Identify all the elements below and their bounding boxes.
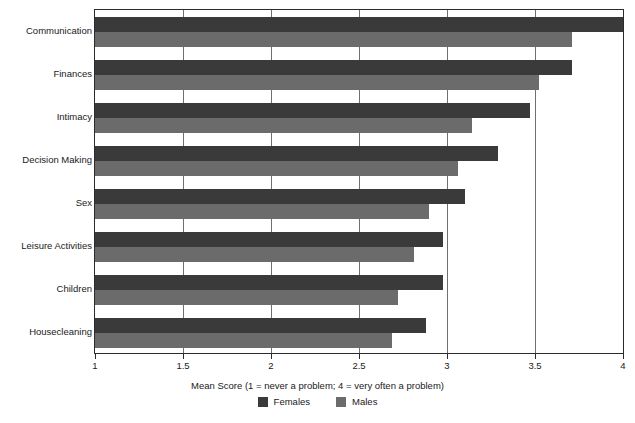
bar-males-children xyxy=(95,290,398,305)
bar-group xyxy=(95,96,623,139)
bar-females-children xyxy=(95,275,443,290)
bar-males-decision-making xyxy=(95,161,458,176)
bar-group xyxy=(95,183,623,226)
x-tick-label-2-5: 2.5 xyxy=(352,360,365,371)
bar-females-sex xyxy=(95,189,465,204)
bar-females-finances xyxy=(95,60,572,75)
x-tick-2-5 xyxy=(359,354,360,359)
y-axis-label-sex: Sex xyxy=(4,197,92,208)
chart-legend: FemalesMales xyxy=(0,396,635,407)
bar-males-housecleaning xyxy=(95,333,392,348)
y-axis-label-decision-making: Decision Making xyxy=(4,154,92,165)
x-tick-label-3-5: 3.5 xyxy=(528,360,541,371)
x-tick-4 xyxy=(623,354,624,359)
bar-group xyxy=(95,10,623,53)
bar-females-decision-making xyxy=(95,146,498,161)
legend-item-females: Females xyxy=(258,396,310,407)
bar-males-leisure-activities xyxy=(95,247,414,262)
bar-males-intimacy xyxy=(95,118,472,133)
y-axis-label-intimacy: Intimacy xyxy=(4,111,92,122)
legend-label: Males xyxy=(352,396,377,407)
bar-group xyxy=(95,312,623,355)
x-tick-label-2: 2 xyxy=(268,360,273,371)
y-axis-label-communication: Communication xyxy=(4,25,92,36)
x-tick-1 xyxy=(95,354,96,359)
bar-males-sex xyxy=(95,204,429,219)
bar-group xyxy=(95,139,623,182)
bar-group xyxy=(95,53,623,96)
horizontal-bar-chart: CommunicationFinancesIntimacyDecision Ma… xyxy=(0,0,635,423)
y-axis-category-labels: CommunicationFinancesIntimacyDecision Ma… xyxy=(0,9,92,354)
x-tick-label-1: 1 xyxy=(92,360,97,371)
legend-swatch-females-icon xyxy=(258,397,268,407)
x-axis-title: Mean Score (1 = never a problem; 4 = ver… xyxy=(0,380,635,392)
bar-females-communication xyxy=(95,17,623,32)
bar-females-leisure-activities xyxy=(95,232,443,247)
y-axis-label-finances: Finances xyxy=(4,68,92,79)
x-tick-3 xyxy=(447,354,448,359)
y-axis-label-leisure-activities: Leisure Activities xyxy=(4,240,92,251)
x-tick-label-4: 4 xyxy=(620,360,625,371)
bar-males-communication xyxy=(95,32,572,47)
bar-females-housecleaning xyxy=(95,318,426,333)
x-tick-label-1-5: 1.5 xyxy=(176,360,189,371)
x-tick-2 xyxy=(271,354,272,359)
y-axis-label-housecleaning: Housecleaning xyxy=(4,326,92,337)
x-tick-1-5 xyxy=(183,354,184,359)
bar-males-finances xyxy=(95,75,539,90)
x-tick-label-3: 3 xyxy=(444,360,449,371)
x-axis: 11.522.533.54 xyxy=(94,354,624,376)
legend-swatch-males-icon xyxy=(336,397,346,407)
legend-item-males: Males xyxy=(336,396,377,407)
bar-group xyxy=(95,269,623,312)
legend-label: Females xyxy=(274,396,310,407)
y-axis-label-children: Children xyxy=(4,283,92,294)
bar-group xyxy=(95,226,623,269)
bar-females-intimacy xyxy=(95,103,530,118)
x-tick-3-5 xyxy=(535,354,536,359)
plot-area xyxy=(94,9,624,354)
